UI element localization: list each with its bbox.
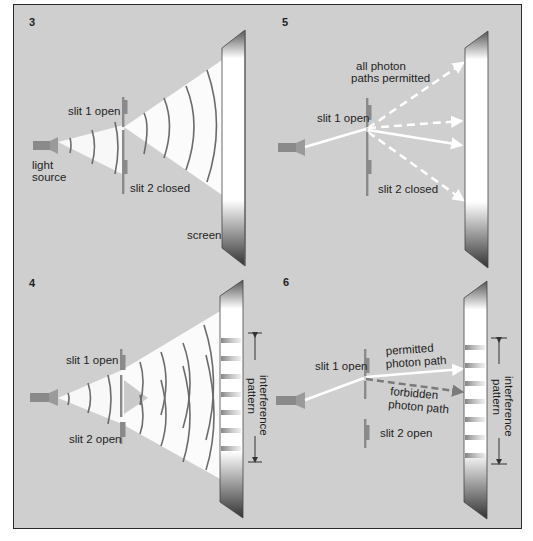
label-slit2: slit 2 open xyxy=(380,427,432,439)
label-pattern: pattern xyxy=(491,379,503,415)
label-interference: interference xyxy=(503,376,515,437)
light-source-icon xyxy=(278,139,305,156)
label-slit1: slit 1 open xyxy=(315,360,367,372)
label-screen: screen xyxy=(187,229,222,241)
screen xyxy=(464,281,487,519)
label-forbidden-line2: photon path xyxy=(388,398,450,415)
light-cone xyxy=(58,125,124,175)
panel-6: 6 xyxy=(276,276,515,519)
label-light: light xyxy=(32,159,54,171)
label-pattern: pattern xyxy=(246,378,258,414)
light-source-icon xyxy=(30,389,58,406)
screen xyxy=(222,30,245,266)
slit-barrier xyxy=(122,97,128,194)
photon-ray xyxy=(305,378,364,400)
panel-5: 5 all photon paths permitted slit 1 open xyxy=(278,16,488,268)
label-paths-line2: paths permitted xyxy=(351,72,430,84)
panel-number: 5 xyxy=(282,16,288,28)
label-slit2: slit 2 closed xyxy=(130,182,190,194)
photon-ray xyxy=(305,129,366,147)
panel-4: 4 xyxy=(29,277,270,518)
double-slit-diagram: 3 slit 1 op xyxy=(0,0,533,541)
permitted-photon-path xyxy=(366,369,462,377)
label-paths-line1: all photon xyxy=(356,60,406,72)
label-slit1: slit 1 open xyxy=(66,354,118,366)
label-slit1: slit 1 open xyxy=(317,112,369,124)
light-source-icon xyxy=(33,137,58,154)
screen xyxy=(220,280,243,518)
panel-number: 4 xyxy=(29,277,36,289)
light-cone-diffracted xyxy=(124,60,222,195)
label-interference: interference xyxy=(258,375,270,436)
label-slit1: slit 1 open xyxy=(68,105,120,117)
label-source: source xyxy=(32,171,67,183)
panel-number: 3 xyxy=(29,16,35,28)
screen xyxy=(465,31,488,268)
panel-number: 6 xyxy=(283,276,289,288)
label-slit2: slit 2 closed xyxy=(378,183,438,195)
label-slit2: slit 2 open xyxy=(69,433,121,445)
light-source-icon xyxy=(276,392,305,409)
panel-3: 3 slit 1 op xyxy=(29,16,245,266)
